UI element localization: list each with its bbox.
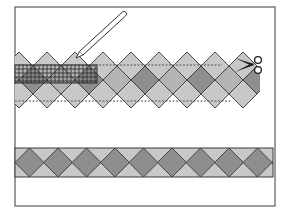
quilting-diagram	[0, 0, 281, 212]
lower-diamond-strip	[0, 148, 281, 177]
ruler-icon	[15, 65, 97, 83]
lower-dark-diamond	[0, 148, 16, 177]
